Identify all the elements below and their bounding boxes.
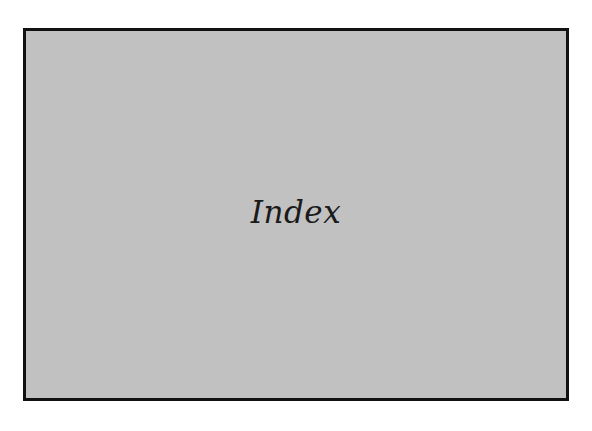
index-panel: Index [23, 28, 569, 401]
index-title: Index [251, 194, 341, 230]
